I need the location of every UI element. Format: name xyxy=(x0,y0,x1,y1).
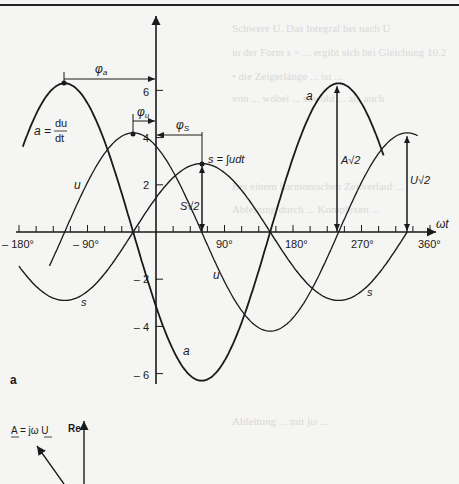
waveform-diagram: – 180° – 90° 90° 180° 270° 360° ωt 6 4 2… xyxy=(0,0,459,484)
curve-labels: φa φu φS a = du dt s = ∫udt S√2 A√2 U√2 … xyxy=(10,62,430,387)
s-definition: s = ∫udt xyxy=(208,153,245,166)
s-amplitude-label: S√2 xyxy=(180,200,200,212)
x-tick-label: 180° xyxy=(285,238,308,250)
panel-label: a xyxy=(10,373,17,387)
y-tick-labels: 6 4 2 – 2 – 4 – 6 xyxy=(134,86,149,381)
phasor-A-arrow xyxy=(37,446,64,484)
phi-u-label: φu xyxy=(137,105,150,120)
u-label-right: u xyxy=(213,268,220,282)
x-tick-label: 360° xyxy=(418,238,441,250)
s-label-right: s xyxy=(367,286,373,298)
a-definition-denominator: dt xyxy=(55,132,64,144)
phasor-equation: A = jω U xyxy=(11,425,49,436)
y-tick-label: 2 xyxy=(143,179,149,191)
u-label-left: u xyxy=(74,178,81,192)
a-amplitude-label: A√2 xyxy=(340,154,361,166)
s-label-left: s xyxy=(81,296,87,308)
x-ticks xyxy=(19,225,430,232)
phi-s-label: φS xyxy=(176,118,190,133)
x-tick-label: – 90° xyxy=(73,238,99,250)
x-axis-label: ωt xyxy=(436,217,449,231)
y-tick-label: – 4 xyxy=(134,321,149,333)
x-tick-label: – 180° xyxy=(2,238,34,250)
y-tick-label: – 6 xyxy=(134,369,149,381)
a-label-right: a xyxy=(306,89,313,103)
u-amplitude-label: U√2 xyxy=(410,174,430,186)
y-tick-label: 6 xyxy=(143,86,149,98)
x-tick-label: 90° xyxy=(216,238,233,250)
phasor-diagram: Re A = jω U xyxy=(11,421,84,484)
x-tick-label: 270° xyxy=(351,238,374,250)
a-definition-numerator: du xyxy=(55,117,67,129)
real-axis-label: Re xyxy=(68,423,81,434)
phi-a-label: φa xyxy=(95,62,108,77)
a-definition-lhs: a = xyxy=(34,124,51,138)
a-label-bottom: a xyxy=(183,344,190,358)
figure-page: Schwere U. Das Integral bei nach U in de… xyxy=(0,0,459,484)
